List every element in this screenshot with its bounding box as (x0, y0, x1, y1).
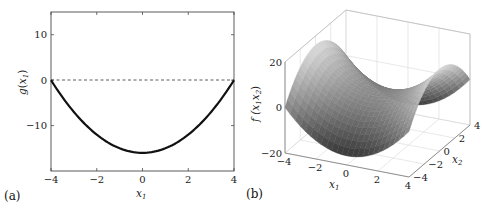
saddle-surface (285, 40, 470, 156)
x2-tick-label: 4 (474, 120, 480, 131)
figure: 100−10 −4−2024 g(x1) x1 (a) 200−20−4−202… (0, 0, 484, 209)
x-tick-label: 0 (139, 174, 145, 185)
panel-label-a: (a) (4, 189, 21, 203)
x2-axis-label-b: x2 (452, 153, 463, 167)
y-axis-label-a: g(x1) (16, 70, 30, 95)
x-tick-label: 4 (231, 174, 237, 185)
x2-tick-label: 2 (459, 133, 465, 144)
chart-panel-a: 100−10 −4−2024 g(x1) x1 (a) (4, 12, 237, 203)
x2-tick-label: −4 (413, 172, 428, 183)
x2-tick-label: −2 (428, 159, 443, 170)
z-tick-label: 20 (269, 57, 282, 68)
x2-tick-label: 0 (444, 146, 450, 157)
x1-tick-label: 2 (374, 174, 380, 185)
x-axis-ticks-a: −4−2024 (44, 12, 238, 185)
panel-label-b: (b) (246, 187, 263, 201)
z-tick-label: 0 (276, 102, 282, 113)
y-tick-label: 0 (41, 75, 47, 86)
z-axis-label-b: f (x1x2) (249, 86, 263, 123)
x1-tick-label: 4 (405, 180, 411, 191)
chart-panel-b: 200−20−4−2024−4−2024 f (x1x2) x1 x2 (b) (246, 10, 480, 201)
plot-area-a (51, 12, 234, 171)
x-tick-label: −4 (44, 174, 59, 185)
x1-tick-label: −2 (308, 162, 323, 173)
x-tick-label: 2 (185, 174, 191, 185)
x1-axis-label-b: x1 (329, 178, 339, 192)
y-tick-label: −10 (26, 120, 47, 131)
x-axis-label-a: x1 (136, 187, 146, 201)
x1-tick-label: 0 (343, 168, 349, 179)
y-tick-label: 10 (34, 29, 47, 40)
x-tick-label: −2 (89, 174, 104, 185)
g-curve (51, 80, 234, 153)
x1-tick-label: −4 (277, 156, 292, 167)
